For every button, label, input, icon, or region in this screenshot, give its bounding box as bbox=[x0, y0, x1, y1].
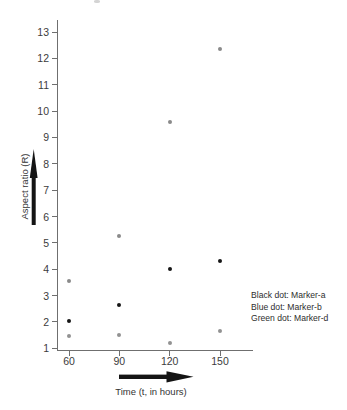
scan-artifact bbox=[94, 0, 100, 3]
x-axis-line bbox=[57, 350, 253, 351]
x-axis-title: Time (t, in hours) bbox=[90, 386, 212, 397]
y-tick-label: 13 bbox=[27, 26, 49, 38]
y-tick bbox=[52, 111, 57, 112]
legend-entry-marker-a: Black dot: Marker-a bbox=[251, 290, 328, 302]
y-tick bbox=[52, 163, 57, 164]
y-tick bbox=[52, 137, 57, 138]
y-tick bbox=[52, 32, 57, 33]
y-tick-label: 12 bbox=[27, 52, 49, 64]
legend-entry-marker-b: Blue dot: Marker-b bbox=[251, 302, 328, 314]
y-tick-label: 10 bbox=[27, 105, 49, 117]
legend: Black dot: Marker-a Blue dot: Marker-b G… bbox=[251, 290, 328, 325]
up-arrow-icon bbox=[28, 148, 40, 228]
data-point-marker-a bbox=[117, 303, 121, 307]
y-tick bbox=[52, 84, 57, 85]
data-point-marker-b bbox=[117, 234, 121, 238]
right-arrow-icon bbox=[117, 370, 195, 384]
y-tick-label: 9 bbox=[27, 131, 49, 143]
y-tick-label: 3 bbox=[27, 290, 49, 302]
scatter-plot-figure: 123456789101112136090120150 Aspect ratio… bbox=[0, 0, 347, 410]
data-point-marker-b bbox=[168, 120, 172, 124]
y-axis-line bbox=[57, 20, 58, 351]
data-point-marker-a bbox=[67, 319, 71, 323]
y-tick-label: 5 bbox=[27, 237, 49, 249]
y-tick-label: 1 bbox=[27, 342, 49, 354]
y-tick bbox=[52, 216, 57, 217]
data-point-marker-d bbox=[218, 329, 222, 333]
data-point-marker-a bbox=[168, 267, 172, 271]
data-point-marker-b bbox=[218, 47, 222, 51]
y-tick bbox=[52, 295, 57, 296]
y-tick bbox=[52, 190, 57, 191]
y-tick bbox=[52, 269, 57, 270]
y-tick bbox=[52, 242, 57, 243]
data-point-marker-d bbox=[67, 334, 71, 338]
x-tick-label: 120 bbox=[156, 355, 184, 367]
y-tick-label: 11 bbox=[27, 79, 49, 91]
data-point-marker-a bbox=[218, 259, 222, 263]
x-tick-label: 150 bbox=[206, 355, 234, 367]
legend-entry-marker-d: Green dot: Marker-d bbox=[251, 313, 328, 325]
data-point-marker-b bbox=[67, 279, 71, 283]
y-tick bbox=[52, 321, 57, 322]
x-tick-label: 90 bbox=[105, 355, 133, 367]
x-tick-label: 60 bbox=[55, 355, 83, 367]
data-point-marker-d bbox=[117, 333, 121, 337]
y-tick-label: 4 bbox=[27, 263, 49, 275]
data-point-marker-d bbox=[168, 341, 172, 345]
y-tick bbox=[52, 348, 57, 349]
y-tick-label: 2 bbox=[27, 316, 49, 328]
y-tick bbox=[52, 58, 57, 59]
